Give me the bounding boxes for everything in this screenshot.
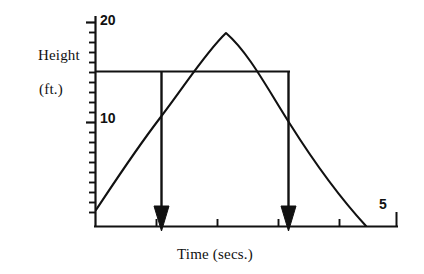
x-axis-title: Time (secs.): [145, 246, 285, 263]
height-curve: [96, 33, 366, 226]
y-tick-label-10: 10: [100, 110, 116, 126]
y-tick-label-20: 20: [100, 12, 116, 28]
x-tick-label-5: 5: [379, 196, 387, 212]
right-solution-arrow: [281, 72, 296, 232]
projectile-height-figure: Height (ft.) Time (secs.) 20 10 5: [0, 0, 424, 274]
x-axis-minor-ticks: [157, 219, 340, 227]
y-axis-title-line1: Height: [38, 47, 80, 63]
y-axis-title: Height (ft.): [12, 30, 90, 132]
left-solution-arrow: [154, 72, 169, 232]
y-axis-title-line2: (ft.): [12, 81, 90, 98]
